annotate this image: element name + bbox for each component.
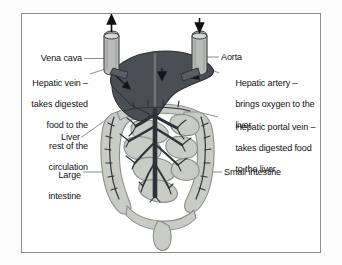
label-hepatic-vein-line3: rest of the [49,141,88,151]
label-large-intestine-line1: Large [58,170,81,180]
label-hepatic-portal-vein-line1: takes digested food [235,143,311,153]
label-hepatic-vein-line2: food to the [47,120,88,130]
label-hepatic-portal-vein-heading: Hepatic portal vein – [235,122,315,132]
label-aorta: Aorta [221,52,281,62]
label-large-intestine-line2: intestine [48,191,81,201]
diagram-stage: Vena cava Hepatic vein – takes digested … [0,0,342,265]
label-large-intestine: Large intestine [18,160,81,212]
label-hepatic-artery-heading: Hepatic artery – [235,78,297,88]
label-vena-cava: Vena cava [22,53,82,63]
label-hepatic-vein-line1: takes digested [31,99,88,109]
label-liver: Liver [22,132,80,142]
label-hepatic-vein-heading: Hepatic vein – [32,78,88,88]
aorta-arrow-down [196,18,204,32]
label-small-intestine: Small intestine [224,167,324,177]
diagram-page: Vena cava Hepatic vein – takes digested … [0,0,342,265]
label-hepatic-artery-line1: brings oxygen to the [235,99,314,109]
vena-cava-arrow-up [108,15,116,32]
